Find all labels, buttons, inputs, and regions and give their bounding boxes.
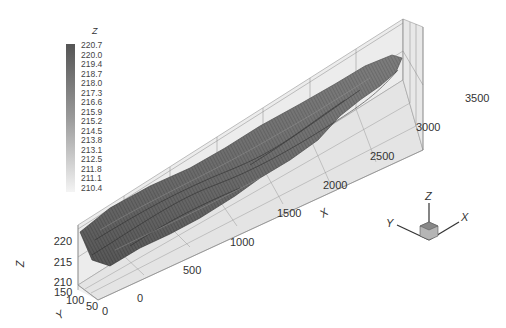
y-tick-100: 100 xyxy=(66,294,84,306)
surface-plot: 220 215 210 Z 150 100 50 0 Y 0 500 1000 … xyxy=(0,0,506,328)
legend-level: 212.5 xyxy=(81,154,103,164)
orientation-triad: Z Y X xyxy=(386,190,469,240)
triad-y-label: Y xyxy=(386,217,394,229)
x-tick-500: 500 xyxy=(183,264,201,276)
legend-level: 215.2 xyxy=(81,116,103,126)
legend-level: 216.6 xyxy=(81,97,103,107)
color-legend: Z 220.7 220.0 219.4 218.7 218.0 217.3 21… xyxy=(66,26,103,193)
y-tick-50: 50 xyxy=(86,300,98,312)
y-tick-0: 0 xyxy=(102,305,108,317)
legend-level: 219.4 xyxy=(81,59,103,69)
legend-level: 210.4 xyxy=(81,183,103,193)
y-axis-label: Y xyxy=(53,307,66,321)
x-tick-1000: 1000 xyxy=(230,236,254,248)
x-tick-1500: 1500 xyxy=(277,207,301,219)
x-tick-2500: 2500 xyxy=(370,150,394,162)
z-tick-215: 215 xyxy=(54,256,72,268)
x-tick-0: 0 xyxy=(137,292,143,304)
legend-level: 218.0 xyxy=(81,78,103,88)
legend-level: 211.1 xyxy=(81,173,102,183)
z-axis-label: Z xyxy=(14,259,26,268)
x-axis-label: X xyxy=(316,205,330,220)
legend-title: Z xyxy=(91,26,98,36)
x-tick-2000: 2000 xyxy=(323,179,347,191)
legend-level: 213.8 xyxy=(81,135,103,145)
legend-color-bar xyxy=(66,44,75,192)
z-tick-220: 220 xyxy=(54,235,72,247)
triad-x-label: X xyxy=(460,211,469,223)
legend-level: 220.7 xyxy=(81,40,103,50)
triad-z-label: Z xyxy=(424,190,433,202)
x-tick-3000: 3000 xyxy=(416,121,440,133)
x-tick-3500: 3500 xyxy=(465,92,489,104)
legend-levels: 220.7 220.0 219.4 218.7 218.0 217.3 216.… xyxy=(81,40,103,193)
z-axis: 220 215 210 Z xyxy=(14,235,72,288)
